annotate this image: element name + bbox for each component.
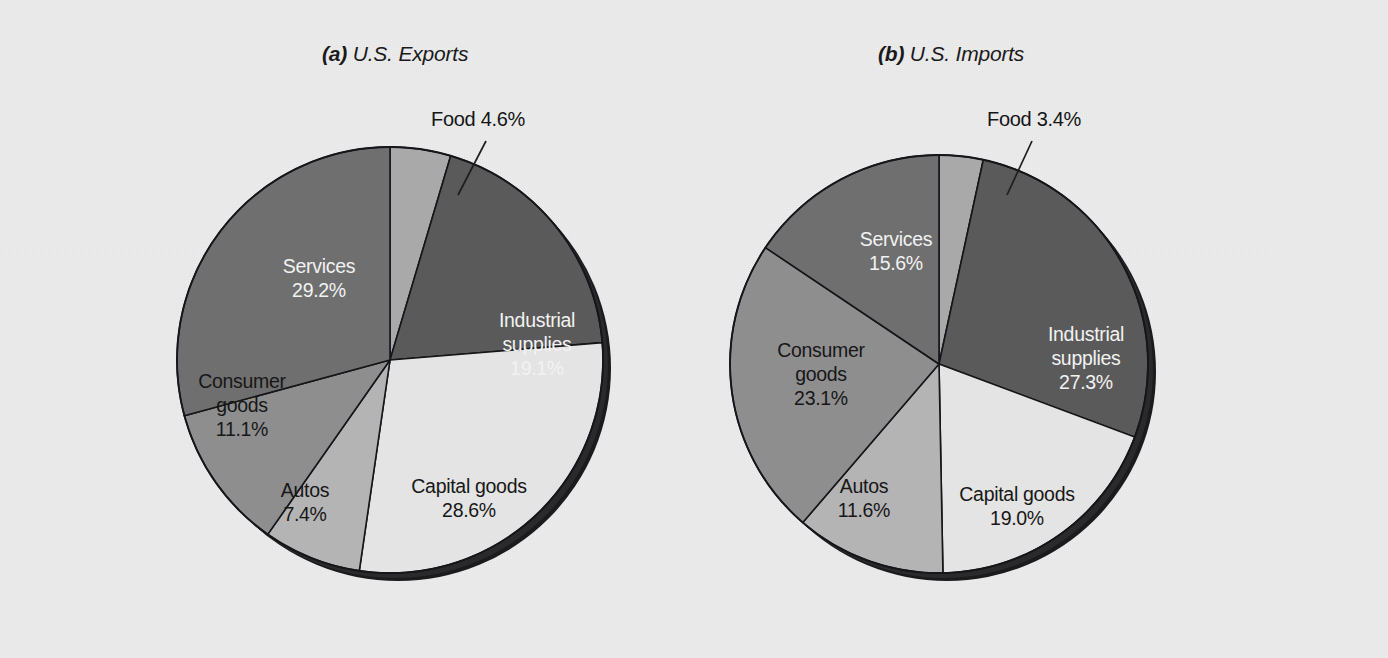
label-imports-industrial-line3: 27.3% xyxy=(1059,371,1113,393)
pie-chart-imports-svg: Services 15.6% Consumer goods 23.1% Auto… xyxy=(0,0,1388,658)
label-imports-services-line2: 15.6% xyxy=(869,252,923,274)
label-imports-consumer-line3: 23.1% xyxy=(794,387,848,409)
label-imports-industrial-line1: Industrial xyxy=(1048,323,1124,345)
label-imports-food-callout: Food 3.4% xyxy=(987,108,1082,130)
figure-root: (a) U.S. Exports (b) U.S. Imports xyxy=(0,0,1388,658)
label-imports-autos-line2: 11.6% xyxy=(838,499,890,521)
label-imports-autos-line1: Autos xyxy=(840,475,889,497)
label-imports-consumer-line2: goods xyxy=(795,363,847,385)
label-imports-capital-line1: Capital goods xyxy=(959,483,1075,505)
label-imports-services-line1: Services xyxy=(860,228,933,250)
label-imports-capital-line2: 19.0% xyxy=(990,507,1044,529)
label-imports-industrial-line2: supplies xyxy=(1051,347,1121,369)
label-imports-consumer-line1: Consumer xyxy=(777,339,865,361)
